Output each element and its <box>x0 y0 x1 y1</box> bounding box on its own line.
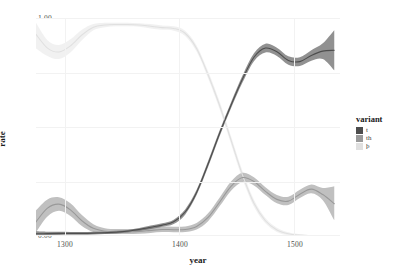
legend-item-thorn[interactable]: þ <box>356 143 396 150</box>
x-tick-label-1500: 1500 <box>287 240 303 249</box>
legend-label-t: t <box>366 127 368 134</box>
legend-label-thorn: þ <box>366 143 370 150</box>
legend-item-t[interactable]: t <box>356 127 396 134</box>
x-tick-label-1400: 1400 <box>172 240 188 249</box>
gridline-x-1300 <box>65 18 66 236</box>
x-tick-label-1300: 1300 <box>57 240 73 249</box>
legend-swatch-th <box>356 135 363 142</box>
line-t <box>36 48 334 234</box>
gridline-x-1400 <box>179 18 180 236</box>
x-axis-title: year <box>0 255 396 265</box>
gridline-x-1500 <box>294 18 295 236</box>
legend: variant t th þ <box>356 114 396 151</box>
chart-root: 1.00 0.75 0.50 0.25 0.00 1300 1400 1500 … <box>0 0 396 278</box>
y-axis-title: rate <box>0 131 7 147</box>
plot-panel <box>36 18 340 236</box>
legend-title: variant <box>356 114 396 124</box>
legend-swatch-thorn <box>356 143 363 150</box>
legend-label-th: th <box>366 135 371 142</box>
legend-swatch-t <box>356 127 363 134</box>
legend-item-th[interactable]: th <box>356 135 396 142</box>
